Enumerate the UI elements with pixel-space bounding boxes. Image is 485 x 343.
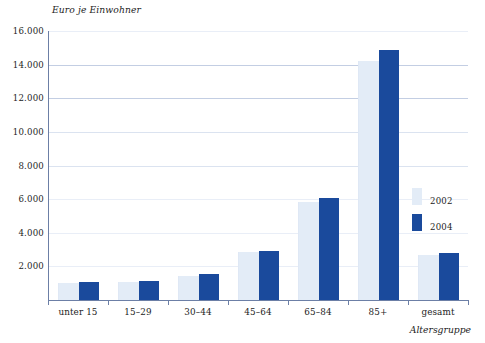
gridline bbox=[48, 65, 468, 66]
gridline bbox=[48, 132, 468, 133]
x-axis-tick-label: 45–64 bbox=[228, 307, 288, 317]
y-axis-tick-label: 6.000 bbox=[0, 194, 44, 204]
x-axis-tickmark bbox=[468, 300, 469, 305]
bar-2002-15–29 bbox=[118, 282, 140, 300]
bar-2002-30–44 bbox=[178, 276, 200, 300]
x-axis-line bbox=[48, 300, 469, 301]
gridline bbox=[48, 98, 468, 99]
bar-2002-85+ bbox=[358, 61, 380, 300]
bar-2004-30–44 bbox=[199, 274, 219, 300]
bar-2002-unter-15 bbox=[58, 283, 80, 300]
y-axis-tick-label: 4.000 bbox=[0, 228, 44, 238]
x-axis-tick-label: gesamt bbox=[408, 307, 468, 317]
x-axis-tickmark bbox=[108, 300, 109, 305]
bar-2004-15–29 bbox=[139, 281, 159, 300]
bar-2004-45–64 bbox=[259, 251, 279, 300]
y-axis-line bbox=[48, 31, 49, 301]
x-axis-tickmark bbox=[48, 300, 49, 305]
legend-label-2002: 2002 bbox=[430, 196, 453, 206]
x-axis-tick-label: unter 15 bbox=[48, 307, 108, 317]
y-axis-tick-label: 10.000 bbox=[0, 127, 44, 137]
gridline bbox=[48, 233, 468, 234]
gridline bbox=[48, 31, 468, 32]
y-axis-tick-label: 16.000 bbox=[0, 26, 44, 36]
x-axis-tick-label: 15–29 bbox=[108, 307, 168, 317]
legend-swatch-2002 bbox=[412, 188, 422, 205]
x-axis-tickmark bbox=[168, 300, 169, 305]
y-axis-tick-label: 2.000 bbox=[0, 261, 44, 271]
x-axis-tick-label: 85+ bbox=[348, 307, 408, 317]
bar-2002-45–64 bbox=[238, 252, 260, 300]
gridline bbox=[48, 199, 468, 200]
bar-chart: Euro je Einwohner 16.00014.00012.00010.0… bbox=[0, 0, 485, 343]
x-axis-tick-label: 30–44 bbox=[168, 307, 228, 317]
bar-2004-unter-15 bbox=[79, 282, 99, 300]
y-axis-tick-label: 8.000 bbox=[0, 161, 44, 171]
y-axis-tick-label: 12.000 bbox=[0, 93, 44, 103]
bar-2004-65–84 bbox=[319, 198, 339, 300]
x-axis-tickmark bbox=[288, 300, 289, 305]
x-axis-tickmark bbox=[408, 300, 409, 305]
bar-2004-85+ bbox=[379, 50, 399, 300]
y-axis-tick-label: 14.000 bbox=[0, 60, 44, 70]
bar-2002-65–84 bbox=[298, 202, 320, 300]
plot-area bbox=[48, 31, 468, 300]
x-axis-tickmark bbox=[228, 300, 229, 305]
gridline bbox=[48, 166, 468, 167]
bar-2004-gesamt bbox=[439, 253, 459, 300]
x-axis-tick-label: 65–84 bbox=[288, 307, 348, 317]
legend-label-2004: 2004 bbox=[430, 222, 453, 232]
bar-2002-gesamt bbox=[418, 255, 440, 300]
x-axis-tickmark bbox=[348, 300, 349, 305]
x-axis-title: Altersgruppe bbox=[410, 324, 471, 335]
y-axis-tick-labels: 16.00014.00012.00010.0008.0006.0004.0002… bbox=[0, 0, 44, 343]
legend-swatch-2004 bbox=[412, 214, 422, 231]
y-axis-title: Euro je Einwohner bbox=[52, 4, 141, 15]
